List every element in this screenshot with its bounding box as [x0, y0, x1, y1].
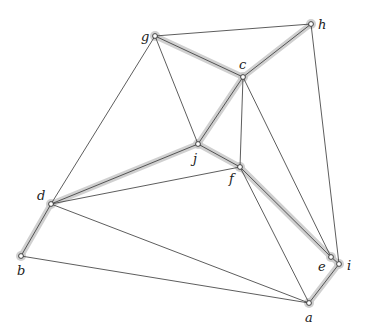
node-d — [49, 202, 54, 207]
edge-f-a — [240, 167, 309, 303]
edge-b-a — [21, 256, 309, 303]
node-e — [329, 255, 334, 260]
node-b — [19, 254, 24, 259]
node-label-i: i — [347, 258, 351, 273]
node-a — [307, 301, 312, 306]
node-j — [196, 142, 201, 147]
edge-d-f — [51, 167, 240, 204]
node-g — [153, 34, 158, 39]
node-layer — [19, 22, 342, 306]
node-h — [309, 22, 314, 27]
edge-f-e — [240, 167, 331, 257]
node-c — [241, 75, 246, 80]
label-layer: abcdefghij — [17, 17, 351, 325]
edge-c-j — [198, 77, 243, 144]
edge-j-f — [198, 144, 240, 167]
node-label-d: d — [37, 188, 45, 203]
edge-d-b — [21, 204, 51, 256]
node-i — [337, 262, 342, 267]
edge-h-i — [311, 24, 339, 264]
edge-c-h — [243, 24, 311, 77]
node-label-c: c — [239, 57, 247, 72]
edge-c-f — [240, 77, 243, 167]
node-f — [238, 165, 243, 170]
node-label-e: e — [318, 259, 326, 274]
edge-g-c — [155, 36, 243, 77]
node-label-j: j — [190, 151, 197, 166]
node-label-b: b — [17, 263, 25, 278]
edge-j-d — [51, 144, 198, 204]
edge-c-e — [243, 77, 331, 257]
highlight-layer — [16, 19, 344, 308]
edge-layer — [21, 24, 339, 303]
node-label-g: g — [141, 29, 149, 44]
edge-g-h — [155, 24, 311, 36]
edge-d-a — [51, 204, 309, 303]
node-label-f: f — [228, 171, 236, 186]
node-label-a: a — [305, 310, 313, 325]
edge-g-d — [51, 36, 155, 204]
graph-diagram: abcdefghij — [0, 0, 368, 335]
node-label-h: h — [318, 17, 326, 32]
